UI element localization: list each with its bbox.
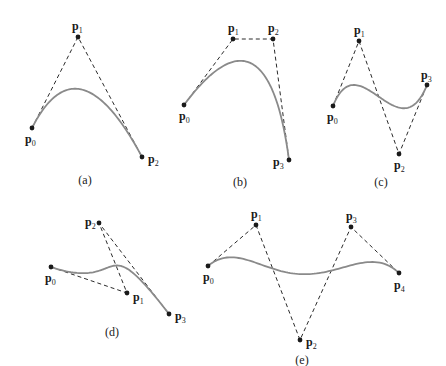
figure-e: p0p1p2p3p4(e)	[203, 207, 405, 366]
control-point-label: p1	[133, 290, 144, 306]
control-point-label: p1	[354, 23, 365, 39]
control-point-p2	[298, 338, 303, 343]
bezier-curve	[51, 265, 169, 314]
control-point-p2	[97, 221, 102, 226]
control-point-label: p0	[179, 109, 190, 125]
control-point-label: p3	[175, 309, 186, 325]
control-point-p1	[125, 291, 130, 296]
figure-caption: (d)	[105, 325, 119, 339]
control-point-label: p2	[306, 335, 317, 351]
control-point-p3	[287, 158, 292, 163]
control-polygon	[184, 39, 289, 160]
bezier-curve	[32, 89, 142, 157]
control-point-p1	[76, 35, 81, 40]
bezier-curve	[208, 257, 399, 274]
control-point-p3	[349, 225, 354, 230]
control-point-p0	[182, 103, 187, 108]
figure-b: p0p1p2p3(b)	[179, 21, 291, 189]
control-point-p0	[331, 104, 336, 109]
figure-caption: (c)	[374, 175, 387, 189]
control-point-label: p4	[394, 278, 405, 294]
control-point-label: p3	[273, 155, 284, 171]
control-point-p3	[167, 312, 172, 317]
figure-a: p0p1p2(a)	[25, 19, 159, 187]
control-point-label: p2	[268, 21, 279, 37]
control-point-label: p0	[25, 132, 36, 148]
control-polygon	[32, 37, 142, 157]
figure-caption: (e)	[295, 353, 308, 366]
bezier-curve	[333, 85, 427, 108]
control-point-p0	[206, 264, 211, 269]
control-point-label: p3	[346, 209, 357, 225]
figure-d: p0p1p2p3(d)	[45, 215, 186, 339]
control-point-p2	[397, 152, 402, 157]
figure-c: p0p1p2p3(c)	[327, 23, 432, 189]
control-point-p2	[140, 155, 145, 160]
figure-caption: (b)	[233, 175, 247, 189]
control-point-label: p3	[421, 68, 432, 84]
control-point-p2	[271, 37, 276, 42]
bezier-curve	[184, 61, 289, 160]
control-point-label: p1	[72, 19, 83, 35]
figure-caption: (a)	[78, 173, 91, 187]
control-point-label: p0	[45, 271, 56, 287]
control-point-label: p2	[394, 158, 405, 174]
control-polygon	[208, 225, 399, 340]
control-point-p1	[254, 223, 259, 228]
control-point-label: p2	[85, 215, 96, 231]
control-point-label: p0	[203, 270, 214, 286]
control-point-p0	[49, 265, 54, 270]
control-point-p1	[231, 37, 236, 42]
control-point-label: p2	[148, 152, 159, 168]
control-point-p1	[357, 39, 362, 44]
control-point-p0	[30, 126, 35, 131]
control-polygon	[51, 223, 169, 314]
control-point-label: p1	[228, 21, 239, 37]
control-point-label: p0	[327, 110, 338, 126]
bezier-diagram: p0p1p2(a)p0p1p2p3(b)p0p1p2p3(c)p0p1p2p3(…	[0, 0, 446, 366]
control-point-p4	[397, 271, 402, 276]
control-point-label: p1	[251, 207, 262, 223]
